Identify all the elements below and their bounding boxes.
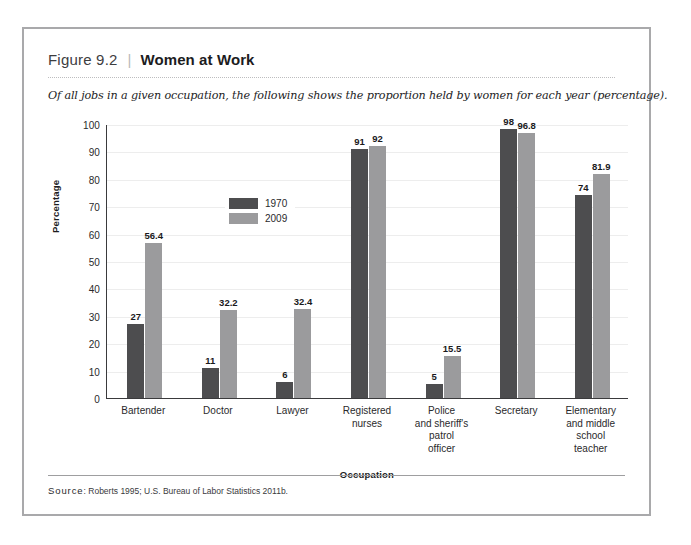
figure-subtitle: Of all jobs in a given occupation, the f…: [48, 89, 618, 102]
x-label-line: Doctor: [181, 405, 256, 418]
title-separator: |: [128, 51, 132, 68]
bars-layer: 2756.41132.2632.49192515.59896.87481.9: [107, 125, 628, 398]
x-axis-labels: BartenderDoctorLawyerRegisterednursesPol…: [106, 401, 628, 463]
x-axis-category-label: Doctor: [181, 405, 256, 418]
y-axis-ticks: 0102030405060708090100: [70, 125, 100, 399]
bar-2009: 92: [369, 146, 386, 398]
y-axis-tick-label: 90: [89, 147, 100, 158]
bar-value-label: 91: [354, 136, 365, 147]
x-axis-category-label: Lawyer: [255, 405, 330, 418]
y-axis-tick-label: 10: [89, 366, 100, 377]
header-divider: [48, 77, 615, 78]
bar-2009: 56.4: [145, 243, 162, 398]
bar-1970: 5: [426, 384, 443, 398]
bar-group: 2756.4: [120, 125, 168, 398]
bar-group: 515.5: [419, 125, 467, 398]
legend-item-1970: 1970: [229, 196, 287, 211]
bar-value-label: 15.5: [443, 343, 462, 354]
source-divider: [48, 475, 625, 476]
legend-swatch-1970: [229, 198, 258, 209]
bar-1970: 91: [351, 149, 368, 398]
x-label-line: Bartender: [106, 405, 181, 418]
source-text: Roberts 1995; U.S. Bureau of Labor Stati…: [88, 486, 288, 496]
bar-group: 1132.2: [195, 125, 243, 398]
x-label-line: and middle: [553, 418, 628, 431]
bar-1970: 11: [202, 368, 219, 398]
bar-2009: 81.9: [593, 174, 610, 398]
x-label-line: patrol: [404, 430, 479, 443]
bar-value-label: 6: [282, 369, 287, 380]
bar-group: 7481.9: [568, 125, 616, 398]
bar-2009: 96.8: [518, 133, 535, 398]
y-axis-tick-label: 40: [89, 284, 100, 295]
y-axis-tick-label: 20: [89, 339, 100, 350]
legend-label-2009: 2009: [265, 213, 287, 224]
figure-number: Figure 9.2: [48, 51, 118, 68]
x-label-line: Secretary: [479, 405, 554, 418]
legend-item-2009: 2009: [229, 211, 287, 226]
x-label-line: Lawyer: [255, 405, 330, 418]
bar-value-label: 32.2: [219, 297, 238, 308]
y-axis-tick-label: 100: [83, 120, 100, 131]
y-axis-title: Percentage: [50, 180, 61, 233]
x-label-line: Police: [404, 405, 479, 418]
bar-value-label: 5: [431, 371, 436, 382]
bar-value-label: 98: [503, 116, 514, 127]
y-axis-tick-label: 70: [89, 202, 100, 213]
x-axis-category-label: Secretary: [479, 405, 554, 418]
x-label-line: and sheriff's: [404, 418, 479, 431]
figure-title-line: Figure 9.2 | Women at Work: [48, 51, 618, 68]
x-label-line: nurses: [330, 418, 405, 431]
plot-area: 2756.41132.2632.49192515.59896.87481.9 1…: [106, 125, 628, 399]
y-axis-tick-label: 0: [94, 394, 100, 405]
x-label-line: teacher: [553, 443, 628, 456]
bar-1970: 6: [276, 382, 293, 398]
bar-value-label: 74: [578, 182, 589, 193]
bar-1970: 74: [575, 195, 592, 398]
y-axis-tick-label: 80: [89, 174, 100, 185]
bar-value-label: 92: [372, 133, 383, 144]
x-axis-category-label: Registerednurses: [330, 405, 405, 430]
legend-swatch-2009: [229, 213, 258, 224]
bar-value-label: 56.4: [145, 230, 164, 241]
x-label-line: Elementary: [553, 405, 628, 418]
x-axis-category-label: Policeand sheriff'spatrolofficer: [404, 405, 479, 455]
bar-1970: 27: [127, 324, 144, 398]
chart-area: Percentage 0102030405060708090100 2756.4…: [48, 125, 628, 470]
source-line: Source: Roberts 1995; U.S. Bureau of Lab…: [48, 485, 288, 496]
bar-group: 9192: [344, 125, 392, 398]
bar-2009: 15.5: [444, 356, 461, 398]
bar-value-label: 27: [130, 311, 141, 322]
bar-2009: 32.4: [294, 309, 311, 398]
x-label-line: Registered: [330, 405, 405, 418]
source-label: Source: [48, 485, 84, 496]
y-axis-tick-label: 30: [89, 311, 100, 322]
x-label-line: officer: [404, 443, 479, 456]
bar-group: 632.4: [269, 125, 317, 398]
bar-value-label: 96.8: [517, 120, 536, 131]
x-axis-category-label: Elementaryand middleschoolteacher: [553, 405, 628, 455]
bar-value-label: 32.4: [294, 296, 313, 307]
y-axis-tick-label: 50: [89, 257, 100, 268]
figure-frame: Figure 9.2 | Women at Work Of all jobs i…: [22, 27, 651, 516]
x-axis-category-label: Bartender: [106, 405, 181, 418]
bar-value-label: 81.9: [592, 161, 611, 172]
bar-group: 9896.8: [493, 125, 541, 398]
page-title: Women at Work: [140, 51, 254, 68]
x-label-line: school: [553, 430, 628, 443]
bar-1970: 98: [500, 129, 517, 398]
bar-value-label: 11: [205, 355, 215, 366]
chart-legend: 1970 2009: [225, 193, 295, 229]
source-colon: :: [84, 486, 86, 496]
legend-label-1970: 1970: [265, 198, 287, 209]
bar-2009: 32.2: [220, 310, 237, 398]
figure-header: Figure 9.2 | Women at Work Of all jobs i…: [48, 51, 618, 102]
y-axis-tick-label: 60: [89, 229, 100, 240]
